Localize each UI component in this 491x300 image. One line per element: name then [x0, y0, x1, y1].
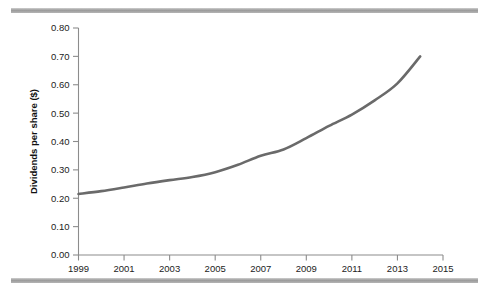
x-tick-label: 2005	[205, 263, 226, 273]
y-tick-label: 0.00	[51, 249, 70, 260]
x-tick-label: 2001	[113, 263, 134, 273]
y-tick-label: 0.50	[51, 108, 70, 119]
y-tick-label: 0.10	[51, 221, 70, 232]
y-tick-label: 0.80	[51, 22, 70, 33]
y-tick-label: 0.40	[51, 136, 70, 147]
x-axis: 199920012003200520072009201120132015	[68, 255, 454, 273]
figure-page: 0.000.100.200.300.400.500.600.700.80 199…	[0, 0, 491, 300]
bottom-rule-bar	[11, 278, 478, 283]
top-rule-bar	[11, 8, 478, 13]
chart-svg: 0.000.100.200.300.400.500.600.700.80 199…	[0, 18, 491, 273]
line-chart: 0.000.100.200.300.400.500.600.700.80 199…	[0, 18, 491, 273]
y-tick-label: 0.70	[51, 51, 70, 62]
x-tick-label: 2011	[342, 263, 362, 273]
x-tick-label: 1999	[68, 263, 89, 273]
y-axis-title: Dividends per share ($)	[28, 89, 39, 194]
y-tick-label: 0.60	[51, 79, 70, 90]
x-tick-label: 2015	[432, 263, 453, 273]
x-tick-label: 2013	[387, 263, 408, 273]
y-axis: 0.000.100.200.300.400.500.600.700.80	[51, 22, 79, 260]
y-tick-label: 0.20	[51, 193, 70, 204]
x-tick-label: 2003	[159, 263, 180, 273]
x-tick-label: 2009	[296, 263, 317, 273]
y-tick-label: 0.30	[51, 164, 70, 175]
data-series-line	[79, 56, 421, 194]
x-tick-label: 2007	[250, 263, 271, 273]
